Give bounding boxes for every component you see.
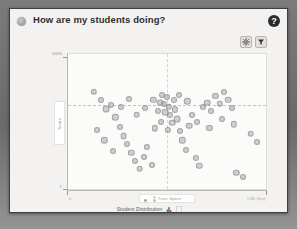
scatter-point[interactable] (155, 108, 161, 114)
scatter-point[interactable] (176, 92, 182, 98)
scatter-point[interactable] (110, 148, 116, 154)
scatter-point[interactable] (126, 96, 132, 102)
scatter-point[interactable] (174, 115, 181, 122)
chart-container: 100% 0 Score 0 1.8K (hrs) ▾ Time Spent S… (10, 39, 288, 213)
y-axis-min-label: 0 (42, 184, 62, 189)
legend-label: Student Distribution (117, 206, 163, 212)
scatter-point[interactable] (98, 97, 104, 103)
scatter-point[interactable] (204, 99, 211, 106)
screen-root: How are my students doing? ? (0, 0, 297, 229)
legend-page-dot[interactable] (144, 199, 147, 202)
scatter-point[interactable] (219, 116, 225, 122)
scatter-point[interactable] (233, 170, 239, 176)
scatter-point[interactable] (208, 108, 214, 114)
scatter-point[interactable] (206, 125, 212, 131)
scatter-point[interactable] (186, 122, 193, 129)
legend-page-dot[interactable] (153, 199, 156, 202)
y-axis-tick-top (63, 57, 67, 58)
scatter-point[interactable] (142, 105, 148, 111)
scatter-point[interactable] (221, 89, 227, 95)
scatter-point[interactable] (171, 97, 177, 103)
scatter-point[interactable] (240, 174, 246, 180)
scatter-point[interactable] (183, 147, 189, 153)
scatter-point[interactable] (91, 89, 97, 95)
scatter-point[interactable] (117, 124, 123, 130)
scatter-point[interactable] (108, 102, 114, 108)
scatter-point[interactable] (158, 119, 164, 125)
y-axis-max-label: 100% (42, 51, 62, 56)
scatter-point[interactable] (254, 139, 260, 145)
scatter-point[interactable] (152, 125, 158, 131)
scatter-point[interactable] (136, 165, 143, 172)
scatter-point[interactable] (212, 93, 218, 99)
scatter-point[interactable] (165, 103, 171, 109)
scatter-plot-area[interactable] (68, 54, 266, 189)
bar-chart-icon[interactable] (165, 205, 172, 213)
legend-page-dots (10, 199, 288, 202)
circle-avatar-icon (16, 16, 27, 27)
scatter-point[interactable] (225, 97, 232, 104)
scatter-point[interactable] (179, 137, 185, 143)
scatter-point[interactable] (124, 141, 130, 147)
scatter-point[interactable] (120, 133, 127, 140)
scatter-point[interactable] (144, 144, 150, 150)
scatter-point[interactable] (164, 94, 170, 100)
x-axis-tick-right (266, 191, 267, 195)
y-axis-title: Score (57, 117, 62, 129)
scatter-point[interactable] (194, 119, 200, 125)
y-axis-tick-bottom (63, 189, 67, 190)
table-view-icon[interactable] (175, 205, 182, 213)
scatter-point[interactable] (184, 98, 190, 104)
y-axis-title-box[interactable]: Score (54, 101, 65, 145)
scatter-point[interactable] (112, 114, 118, 120)
scatter-point[interactable] (193, 155, 199, 161)
scatter-point[interactable] (247, 130, 254, 137)
scatter-point[interactable] (164, 127, 170, 133)
x-axis-tick-left (67, 191, 68, 195)
scatter-point[interactable] (132, 158, 138, 164)
scatter-point[interactable] (149, 162, 155, 168)
scatter-point[interactable] (229, 105, 235, 111)
scatter-point[interactable] (94, 127, 100, 133)
scatter-point[interactable] (133, 111, 140, 118)
scatter-point[interactable] (172, 106, 178, 112)
help-question-icon[interactable]: ? (268, 15, 280, 27)
scatter-point[interactable] (196, 163, 202, 169)
x-axis-line (67, 190, 267, 191)
scatter-point[interactable] (167, 112, 173, 118)
card-header: How are my students doing? ? (10, 9, 287, 35)
scatter-point[interactable] (141, 154, 147, 160)
dashboard-card: How are my students doing? ? (9, 8, 288, 213)
scatter-point[interactable] (118, 104, 124, 110)
legend: Student Distribution (10, 205, 288, 213)
y-axis-line (67, 53, 68, 190)
scatter-point[interactable] (177, 128, 183, 134)
scatter-point[interactable] (128, 149, 134, 155)
scatter-plot-frame[interactable] (67, 53, 267, 190)
scatter-point[interactable] (101, 137, 107, 143)
scatter-point[interactable] (189, 112, 195, 118)
scatter-point[interactable] (230, 121, 236, 127)
page-title: How are my students doing? (33, 14, 165, 25)
